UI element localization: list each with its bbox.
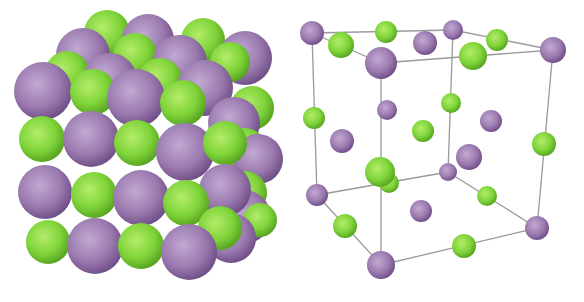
small-ion-sphere xyxy=(459,42,487,70)
large-ion-sphere xyxy=(367,251,395,279)
crystal-structure-figure xyxy=(0,0,584,302)
small-ion-sphere xyxy=(486,29,508,51)
unit-cell-model xyxy=(0,0,584,302)
large-ion-sphere xyxy=(300,21,324,45)
large-ion-sphere xyxy=(525,216,549,240)
small-ion-sphere xyxy=(477,186,497,206)
large-ion-sphere xyxy=(410,200,432,222)
small-ion-sphere xyxy=(375,21,397,43)
large-ion-sphere xyxy=(413,31,437,55)
small-ion-sphere xyxy=(441,93,461,113)
large-ion-sphere xyxy=(306,184,328,206)
small-ion-sphere xyxy=(365,157,395,187)
small-ion-sphere xyxy=(333,214,357,238)
small-ion-sphere xyxy=(328,32,354,58)
large-ion-sphere xyxy=(456,144,482,170)
large-ion-sphere xyxy=(443,20,463,40)
small-ion-sphere xyxy=(412,120,434,142)
large-ion-sphere xyxy=(540,37,566,63)
small-ion-sphere xyxy=(303,107,325,129)
large-ion-sphere xyxy=(377,100,397,120)
small-ion-sphere xyxy=(532,132,556,156)
small-ion-sphere xyxy=(452,234,476,258)
large-ion-sphere xyxy=(330,129,354,153)
large-ion-sphere xyxy=(480,110,502,132)
large-ion-sphere xyxy=(439,163,457,181)
large-ion-sphere xyxy=(365,47,397,79)
